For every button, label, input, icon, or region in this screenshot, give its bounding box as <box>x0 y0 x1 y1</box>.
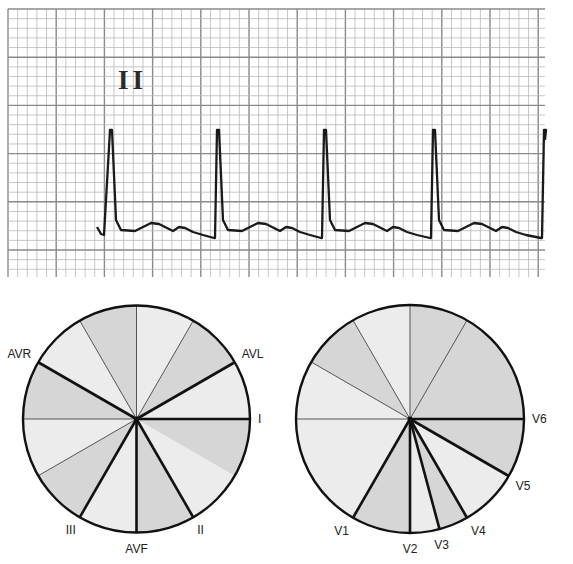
ecg-trace-lead-ii <box>97 130 546 238</box>
ecg-grid-paper <box>8 9 545 277</box>
frontal-lead-label: AVR <box>7 347 31 361</box>
frontal-lead-label: AVL <box>242 347 264 361</box>
hexaxial-limb-lead-diagram: IIIAVFIIIAVRAVL <box>7 306 263 556</box>
lead-label: II <box>118 65 147 95</box>
precordial-lead-label: V5 <box>516 479 531 493</box>
precordial-lead-label: V4 <box>471 524 486 538</box>
frontal-lead-label: AVF <box>125 542 147 556</box>
precordial-lead-label: V6 <box>532 412 547 426</box>
precordial-center-point <box>408 417 413 422</box>
precordial-lead-label: V1 <box>334 524 349 538</box>
precordial-lead-diagram: V1V2V3V4V5V6 <box>296 305 547 556</box>
precordial-lead-label: V2 <box>403 542 418 556</box>
frontal-lead-label: III <box>66 523 76 537</box>
precordial-lead-label: V3 <box>434 538 449 552</box>
ecg-figure: II IIIAVFIIIAVRAVL V1V2V3V4V5V6 <box>0 0 573 564</box>
frontal-lead-label: II <box>197 523 204 537</box>
frontal-center-point <box>134 417 139 422</box>
frontal-lead-label: I <box>258 412 261 426</box>
